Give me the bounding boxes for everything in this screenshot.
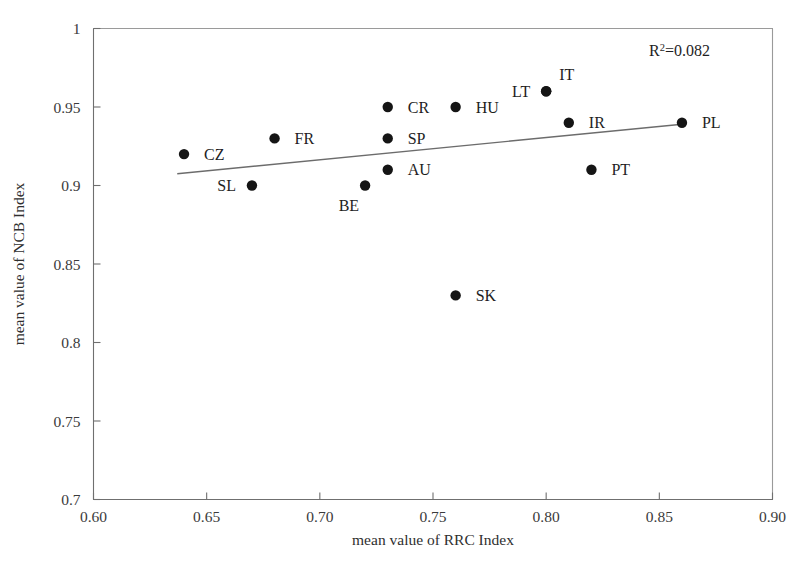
data-point-marker [450, 102, 460, 112]
data-point-marker [564, 118, 574, 128]
data-point-label: SK [476, 287, 497, 304]
x-tick-label: 0.85 [646, 508, 673, 525]
data-point-label: AU [408, 161, 432, 178]
x-axis-title: mean value of RRC Index [352, 531, 514, 548]
data-point-label: LT [512, 83, 530, 100]
plot-canvas: 0.600.650.700.750.800.850.900.70.750.80.… [0, 0, 806, 572]
data-point-marker [541, 86, 551, 96]
data-point-marker [383, 133, 393, 143]
data-point-label: HU [476, 99, 500, 116]
plot-frame [93, 29, 773, 501]
y-tick-label: 0.95 [53, 99, 80, 116]
x-tick-label: 0.65 [193, 508, 220, 525]
x-tick-label: 0.80 [533, 508, 560, 525]
data-point-marker [450, 290, 460, 300]
data-point-label: IR [589, 114, 605, 131]
y-tick-label: 0.9 [61, 177, 81, 194]
data-point-marker [383, 165, 393, 175]
y-tick-label: 0.7 [61, 491, 81, 508]
data-point-marker [269, 133, 279, 143]
data-point-label: BE [339, 197, 359, 214]
data-point-label: CR [408, 99, 430, 116]
x-tick-label: 0.90 [759, 508, 786, 525]
data-point-marker [677, 118, 687, 128]
scatter-plot-figure: 0.600.650.700.750.800.850.900.70.750.80.… [0, 0, 806, 572]
data-point-label: FR [295, 130, 315, 147]
data-point-label: CZ [204, 146, 224, 163]
axis-tick-labels: 0.600.650.700.750.800.850.900.70.750.80.… [53, 20, 786, 525]
data-point-label: SP [408, 130, 426, 147]
r-squared-annotation: R2=0.082 [649, 42, 710, 60]
y-tick-label: 0.75 [53, 413, 80, 430]
x-tick-label: 0.60 [80, 508, 107, 525]
data-point-marker [179, 149, 189, 159]
y-tick-label: 1 [73, 20, 81, 37]
data-point-label: IT [559, 66, 574, 83]
x-tick-label: 0.70 [306, 508, 333, 525]
axis-ticks [94, 29, 773, 500]
data-point-marker [247, 180, 257, 190]
y-tick-label: 0.85 [53, 256, 80, 273]
data-point-label: PL [702, 114, 721, 131]
data-point-marker [383, 102, 393, 112]
data-point-label: SL [217, 177, 236, 194]
y-axis-title: mean value of NCB Index [10, 182, 27, 345]
data-point-marker [586, 165, 596, 175]
data-point-label: PT [611, 161, 630, 178]
data-point-marker [360, 180, 370, 190]
y-tick-label: 0.8 [61, 334, 81, 351]
data-points: CZSLFRBECRSPAUHUSKLTITIRPTPL [179, 66, 721, 304]
x-tick-label: 0.75 [419, 508, 446, 525]
